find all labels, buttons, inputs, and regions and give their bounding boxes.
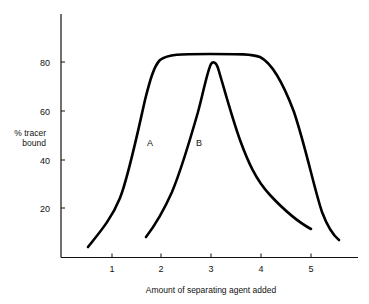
curve-a [88, 54, 339, 247]
x-tick-label: 3 [208, 264, 213, 274]
curve-a-label: A [147, 138, 153, 148]
y-tick-label: 60 [40, 107, 50, 117]
y-tick-label: 20 [40, 204, 50, 214]
x-tick-label: 1 [109, 264, 114, 274]
chart: 80 60 40 20 1 2 3 4 5 Amount of separati… [0, 0, 369, 304]
x-tick-label: 2 [158, 264, 163, 274]
y-axis-label-line-1: % tracer [14, 128, 46, 138]
x-tick-label: 5 [308, 264, 313, 274]
y-axis-label-line-2: bound [22, 138, 46, 148]
curve-b-label: B [196, 138, 202, 148]
y-tick-label: 40 [40, 156, 50, 166]
x-tick-label: 4 [258, 264, 263, 274]
curve-b [146, 62, 311, 237]
y-tick-label: 80 [40, 58, 50, 68]
x-tick-labels: 1 2 3 4 5 [109, 264, 313, 274]
x-axis-label: Amount of separating agent added [146, 285, 277, 295]
